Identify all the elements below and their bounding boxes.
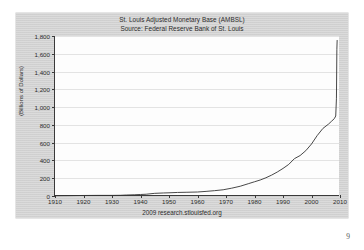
- y-tick-label: 1,400: [35, 68, 50, 75]
- plot-wrapper: 02004006008001,0001,2001,4001,6001,800 1…: [54, 36, 339, 196]
- y-tick-label: 1,000: [35, 104, 50, 111]
- y-tick-label: 400: [40, 157, 50, 164]
- plot-area: 02004006008001,0001,2001,4001,6001,800 1…: [54, 36, 339, 196]
- x-tick-label: 1990: [276, 198, 290, 205]
- y-tick-label: 1,200: [35, 86, 50, 93]
- chart-subtitle: Source: Federal Reserve Bank of St. Loui…: [16, 25, 348, 34]
- x-tick-label: 1940: [134, 198, 148, 205]
- chart-title: St. Louis Adjusted Monetary Base (AMBSL): [16, 16, 348, 25]
- document-page: St. Louis Adjusted Monetary Base (AMBSL)…: [0, 0, 364, 250]
- y-tick-label: 800: [40, 121, 50, 128]
- chart-title-block: St. Louis Adjusted Monetary Base (AMBSL)…: [16, 16, 348, 33]
- data-series-line: [55, 36, 340, 196]
- x-tick-label: 1980: [248, 198, 262, 205]
- y-tick-label: 600: [40, 139, 50, 146]
- y-axis-title: (Billions of Dollars): [18, 66, 24, 116]
- x-tick-label: 1960: [191, 198, 205, 205]
- chart-footer-note: 2009 research.stlouisfed.org: [16, 209, 348, 216]
- figure-card: St. Louis Adjusted Monetary Base (AMBSL)…: [16, 13, 348, 218]
- x-tick-label: 1970: [219, 198, 233, 205]
- page-number: 9: [346, 232, 350, 241]
- y-tick-label: 1,600: [35, 50, 50, 57]
- x-tick-label: 1920: [77, 198, 91, 205]
- x-tick-label: 2010: [333, 198, 347, 205]
- y-tick-label: 200: [40, 175, 50, 182]
- x-tick-label: 1930: [105, 198, 119, 205]
- x-tick-label: 2000: [305, 198, 319, 205]
- x-tick-label: 1950: [162, 198, 176, 205]
- x-tick-label: 1910: [48, 198, 62, 205]
- y-tick-label: 1,800: [35, 33, 50, 40]
